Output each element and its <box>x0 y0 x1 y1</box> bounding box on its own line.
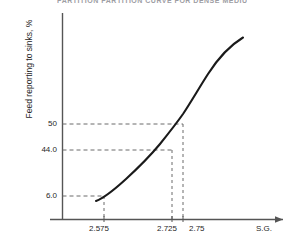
y-tick-label-44: 44.0 <box>24 145 57 154</box>
x-axis-label: S.G. <box>256 224 272 233</box>
x-axis-arrowhead <box>275 216 283 222</box>
partition-curve-path <box>96 38 243 202</box>
x-tick-label-275: 2.75 <box>189 224 205 233</box>
y-tick-label-6: 6.0 <box>24 191 57 200</box>
x-tick-label-2725: 2.725 <box>157 224 177 233</box>
partition-curve-chart: PARTITION PARTITION CURVE FOR DENSE MEDI… <box>0 0 294 245</box>
x-tick-label-2575: 2.575 <box>89 224 109 233</box>
y-tick-label-50: 50 <box>24 119 57 128</box>
